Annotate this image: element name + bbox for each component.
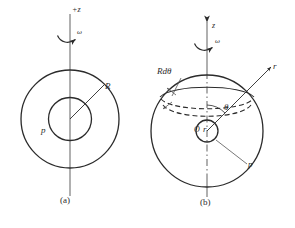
panel-b-radial-arrow — [207, 67, 271, 131]
panel-b-band-label: Rdθ — [157, 67, 171, 76]
panel-a-axis-label: +z — [72, 6, 81, 14]
panel-a-radius-label: R — [105, 82, 111, 91]
figure-canvas: +z ω R p (a) z ω Rdθ θ O r r p (b) — [0, 0, 295, 228]
panel-b-radial-label-center: r — [203, 125, 207, 134]
panel-b-axis-label: z — [212, 22, 215, 30]
panel-a-caption: (a) — [60, 196, 70, 205]
figure-a-graphics — [0, 0, 295, 228]
panel-b-point-label: p — [248, 160, 253, 169]
panel-b-point-leader-line — [216, 140, 247, 164]
panel-a-omega-arrow — [58, 36, 76, 43]
panel-b-theta-label: θ — [224, 103, 228, 112]
panel-b-radial-label: r — [273, 62, 277, 71]
panel-a-omega-label: ω — [77, 29, 82, 36]
panel-b-caption: (b) — [200, 198, 211, 207]
panel-a-radius-line — [70, 85, 105, 120]
panel-b-omega-label: ω — [215, 38, 220, 45]
panel-b-omega-arrow — [195, 44, 213, 51]
panel-b-origin-label: O — [194, 126, 200, 134]
panel-a-point-label: p — [41, 126, 46, 135]
